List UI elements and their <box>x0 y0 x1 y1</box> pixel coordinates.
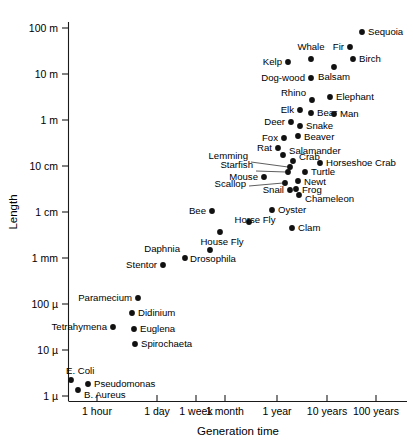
data-point[interactable] <box>302 169 308 175</box>
data-point-label: Sequoia <box>368 26 404 37</box>
x-tick-label: 1 day <box>144 405 170 417</box>
data-point-label: Deer <box>264 116 286 127</box>
x-tick-label: 10 years <box>307 405 347 417</box>
data-point[interactable] <box>75 387 81 393</box>
data-point[interactable] <box>327 94 333 100</box>
x-axis-ticks: 1 hour1 day1 week1 month1 year10 years10… <box>82 395 399 417</box>
data-point[interactable] <box>261 174 267 180</box>
data-point-label: E. Coli <box>66 365 94 376</box>
data-point-label: B. Aureus <box>84 389 126 400</box>
x-tick-label: 100 years <box>353 405 399 417</box>
data-point[interactable] <box>281 135 287 141</box>
data-point[interactable] <box>295 178 301 184</box>
data-point[interactable] <box>289 225 295 231</box>
data-point[interactable] <box>131 326 137 332</box>
data-point[interactable] <box>209 208 215 214</box>
data-point[interactable] <box>275 145 281 151</box>
data-point-label: Pseudomonas <box>94 378 156 389</box>
data-point[interactable] <box>308 56 314 62</box>
x-tick-label: 1 hour <box>82 405 112 417</box>
y-tick-label: 1 m <box>40 114 58 126</box>
data-point-label: Elk <box>281 104 295 115</box>
data-point[interactable] <box>347 44 353 50</box>
data-point[interactable] <box>285 169 291 175</box>
x-tick-label: 1 month <box>206 405 244 417</box>
data-point-label: Starfish <box>220 159 253 170</box>
data-point[interactable] <box>331 64 337 70</box>
y-tick-label: 100 µ <box>32 298 59 310</box>
data-point[interactable] <box>135 295 141 301</box>
data-point-label: Didinium <box>138 307 175 318</box>
data-point-label: Euglena <box>140 323 176 334</box>
y-tick-label: 1 mm <box>32 252 59 264</box>
y-tick-label: 10 µ <box>37 344 58 356</box>
data-point-label: Elephant <box>336 91 374 102</box>
data-point[interactable] <box>85 381 91 387</box>
data-point-label: Chameleon <box>305 193 354 204</box>
data-point-label: Crab <box>299 151 320 162</box>
data-point-label: Daphnia <box>144 243 180 254</box>
data-point[interactable] <box>269 207 275 213</box>
data-point[interactable] <box>68 377 74 383</box>
data-point-label: Whale <box>297 41 324 52</box>
data-point-label: Drosophila <box>190 253 237 264</box>
data-point[interactable] <box>110 324 116 330</box>
data-point[interactable] <box>359 29 365 35</box>
scatter-chart-root: 100 m10 m1 m10 cm1 cm1 mm100 µ10 µ1 µ 1 … <box>0 0 413 446</box>
data-point[interactable] <box>293 186 299 192</box>
data-point[interactable] <box>290 158 296 164</box>
y-axis-ticks: 100 m10 m1 m10 cm1 cm1 mm100 µ10 µ1 µ <box>29 22 69 402</box>
data-point[interactable] <box>132 341 138 347</box>
data-point[interactable] <box>287 187 293 193</box>
data-point[interactable] <box>288 119 294 125</box>
data-point-label: Paramecium <box>78 292 132 303</box>
y-tick-label: 10 m <box>35 68 59 80</box>
leader-line <box>251 162 288 167</box>
data-point[interactable] <box>297 107 303 113</box>
y-tick-label: 1 cm <box>35 206 58 218</box>
data-point-label: Oyster <box>278 204 307 215</box>
data-point[interactable] <box>308 75 314 81</box>
data-point-label: Fir <box>333 41 345 52</box>
data-point-label: Beaver <box>304 131 335 142</box>
data-point[interactable] <box>182 255 188 261</box>
data-point[interactable] <box>280 152 286 158</box>
plot-canvas: 100 m10 m1 m10 cm1 cm1 mm100 µ10 µ1 µ 1 … <box>0 0 413 446</box>
data-point-label: Stentor <box>126 259 158 270</box>
y-tick-label: 100 m <box>29 22 58 34</box>
data-point-label: Rhino <box>281 87 306 98</box>
data-point[interactable] <box>308 110 314 116</box>
data-point-label: Spirochaeta <box>141 338 193 349</box>
data-point-label: Rat <box>257 142 272 153</box>
y-tick-label: 10 cm <box>29 160 58 172</box>
data-points-group: SequoiaFirBirchWhaleKelpBalsamDog-woodRh… <box>52 26 404 400</box>
y-axis-title: Length <box>7 194 19 229</box>
x-tick-label: 1 year <box>262 405 292 417</box>
data-point[interactable] <box>160 262 166 268</box>
data-point-label: Scallop <box>215 178 246 189</box>
data-point[interactable] <box>296 192 302 198</box>
data-point[interactable] <box>331 111 337 117</box>
data-point-label: Tetrahymena <box>52 321 108 332</box>
data-point[interactable] <box>287 164 293 170</box>
data-point-label: Horseshoe Crab <box>326 157 396 168</box>
data-point-label: Snail <box>263 184 284 195</box>
data-point-label: House Fly <box>200 236 243 247</box>
data-point[interactable] <box>297 123 303 129</box>
leader-line <box>256 171 286 172</box>
data-point[interactable] <box>295 133 301 139</box>
data-point-label: Kelp <box>263 56 282 67</box>
data-point[interactable] <box>350 56 356 62</box>
data-point-label: Man <box>340 108 359 119</box>
data-point[interactable] <box>285 59 291 65</box>
data-point[interactable] <box>309 97 315 103</box>
data-point[interactable] <box>217 229 223 235</box>
data-point-label: Clam <box>298 222 320 233</box>
data-point[interactable] <box>129 310 135 316</box>
data-point-label: Bee <box>189 205 206 216</box>
x-axis-title: Generation time <box>197 425 279 437</box>
y-tick-label: 1 µ <box>43 390 58 402</box>
data-point-label: Snake <box>306 120 333 131</box>
data-point-label: Birch <box>359 53 381 64</box>
data-point-label: Balsam <box>318 71 350 82</box>
